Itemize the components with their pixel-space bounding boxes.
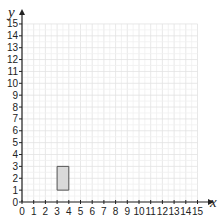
x-tick-label: 9 — [125, 206, 131, 217]
x-tick-label: 4 — [66, 206, 72, 217]
x-tick-label: 10 — [133, 206, 145, 217]
x-tick-label: 0 — [19, 206, 25, 217]
y-tick-label: 6 — [12, 125, 18, 136]
y-tick-label: 0 — [12, 197, 18, 208]
y-tick-label: 13 — [7, 42, 19, 53]
y-axis-label: y — [6, 4, 15, 20]
x-tick-label: 13 — [169, 206, 181, 217]
y-tick-label: 1 — [12, 185, 18, 196]
x-tick-label: 3 — [54, 206, 60, 217]
rectangle-shape — [57, 166, 69, 190]
x-tick-label: 8 — [113, 206, 119, 217]
y-tick-label: 2 — [12, 173, 18, 184]
x-tick-label: 1 — [31, 206, 37, 217]
x-tick-label: 6 — [89, 206, 95, 217]
y-tick-label: 5 — [12, 137, 18, 148]
y-tick-label: 10 — [7, 78, 19, 89]
shapes-layer — [57, 166, 69, 190]
y-tick-label: 8 — [12, 102, 18, 113]
y-tick-label: 7 — [12, 113, 18, 124]
coordinate-grid-chart: 0123456789101112131415 01234567891011121… — [0, 0, 221, 218]
y-tick-label: 4 — [12, 149, 18, 160]
y-tick-label: 11 — [8, 66, 19, 77]
x-tick-label: 11 — [146, 206, 157, 217]
y-axis-ticks: 0123456789101112131415 — [7, 18, 22, 207]
y-axis-arrow-icon — [19, 9, 25, 15]
y-tick-label: 14 — [7, 30, 19, 41]
y-tick-label: 3 — [12, 161, 18, 172]
x-axis-label: x — [209, 194, 217, 210]
x-tick-label: 14 — [180, 206, 192, 217]
x-tick-label: 2 — [43, 206, 49, 217]
y-tick-label: 12 — [7, 54, 19, 65]
x-tick-label: 12 — [157, 206, 169, 217]
x-tick-label: 5 — [78, 206, 84, 217]
y-tick-label: 15 — [7, 18, 19, 29]
x-tick-label: 15 — [192, 206, 204, 217]
grid-lines — [22, 24, 198, 202]
y-tick-label: 9 — [12, 90, 18, 101]
x-tick-label: 7 — [101, 206, 107, 217]
